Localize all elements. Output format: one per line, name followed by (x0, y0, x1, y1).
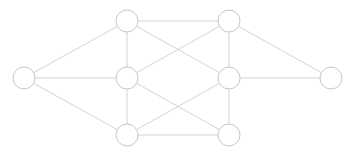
graph-node-left[interactable] (13, 67, 35, 89)
edge-layer (34, 21, 322, 135)
graph-node-mid-right[interactable] (218, 67, 240, 89)
graph-node-mid-left[interactable] (116, 67, 138, 89)
graph-diagram (0, 0, 356, 157)
graph-edge-n-left-to-n-top-left (34, 26, 118, 72)
graph-node-top-right[interactable] (218, 10, 240, 32)
graph-node-top-left[interactable] (116, 10, 138, 32)
graph-edge-n-top-right-to-n-right (239, 26, 322, 72)
graph-node-bottom-right[interactable] (218, 124, 240, 146)
graph-node-right[interactable] (320, 67, 342, 89)
graph-edge-n-left-to-n-bottom-left (34, 83, 118, 129)
graph-node-bottom-left[interactable] (116, 124, 138, 146)
